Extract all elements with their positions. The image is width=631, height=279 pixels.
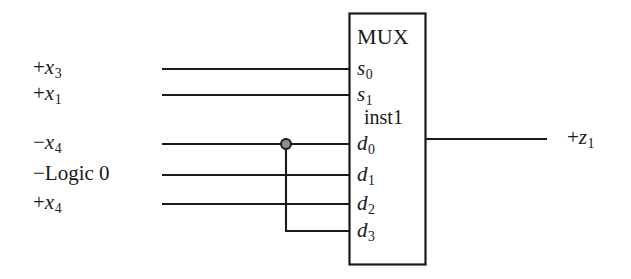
var-z1: z [579,125,587,149]
mux-schematic-diagram: +x3 +x1 −x4 −Logic 0 +x4 MUX s0 s1 inst1… [0,0,631,279]
sign-s0: + [33,55,45,79]
mux-instance-name: inst1 [364,107,403,127]
wire-junction-dot [281,139,291,149]
sub-d2: 4 [55,201,62,216]
input-label-s1: +x1 [33,83,62,104]
var-s0: x [45,55,54,79]
port-label-s0: s0 [357,58,373,79]
port-letter-s1: s [357,82,365,106]
port-sub-d2: 2 [368,202,375,217]
port-label-d3: d3 [357,220,375,241]
output-label-z1: +z1 [567,127,594,148]
port-label-d1: d1 [357,164,375,185]
port-letter-d2: d [357,191,368,215]
sub-s1: 1 [55,92,62,107]
sub-d0: 4 [55,141,62,156]
mux-block-title: MUX [357,26,409,48]
port-label-s1: s1 [357,84,373,105]
input-label-d2: +x4 [33,192,62,213]
var-d2: x [45,190,54,214]
port-label-d2: d2 [357,193,375,214]
port-sub-s0: 0 [366,67,373,82]
schematic-canvas [0,0,631,279]
input-label-d1: −Logic 0 [33,163,110,184]
port-label-d0: d0 [357,133,375,154]
port-letter-d1: d [357,162,368,186]
port-sub-d0: 0 [368,142,375,157]
var-d0: x [45,130,54,154]
port-letter-d0: d [357,131,368,155]
word-d1: Logic 0 [45,161,110,185]
sign-d2: + [33,190,45,214]
sign-s1: + [33,81,45,105]
port-sub-d1: 1 [368,173,375,188]
sub-z1: 1 [588,136,595,151]
port-sub-d3: 3 [368,229,375,244]
var-s1: x [45,81,54,105]
sign-d0: − [33,130,45,154]
input-label-d0: −x4 [33,132,62,153]
port-letter-d3: d [357,218,368,242]
sub-s0: 3 [55,66,62,81]
input-label-s0: +x3 [33,57,62,78]
sign-d1: − [33,161,45,185]
sign-z1: + [567,125,579,149]
port-letter-s0: s [357,56,365,80]
